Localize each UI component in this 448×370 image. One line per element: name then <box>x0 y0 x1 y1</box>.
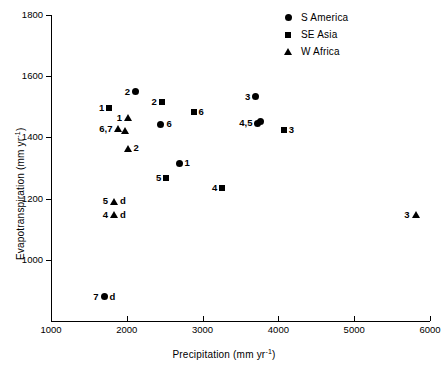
data-point-label: 3 <box>404 209 409 220</box>
x-tick-label: 5000 <box>344 324 365 335</box>
data-point-circle <box>101 293 108 300</box>
data-point-label: 6,7 <box>99 123 112 134</box>
y-tick <box>46 137 51 138</box>
data-point-square <box>106 105 112 111</box>
data-point-circle <box>157 121 164 128</box>
data-point-label: 3 <box>245 91 250 102</box>
data-point-circle <box>176 160 183 167</box>
x-tick-label: 4000 <box>268 324 289 335</box>
data-point-label: 1 <box>117 112 122 123</box>
x-tick <box>430 316 431 321</box>
y-tick <box>46 76 51 77</box>
data-point-square <box>163 175 169 181</box>
data-point-suffix: d <box>120 195 126 206</box>
legend-item-triangle: W Africa <box>281 44 348 59</box>
data-point-suffix: d <box>110 291 116 302</box>
data-point-square <box>281 127 287 133</box>
data-point-suffix: d <box>120 209 126 220</box>
data-point-square <box>191 109 197 115</box>
data-point-triangle <box>412 211 420 218</box>
data-point-label: 2 <box>125 86 130 97</box>
data-point-triangle <box>110 211 118 218</box>
legend-item-square: SE Asia <box>281 27 348 42</box>
x-axis-line <box>51 321 430 322</box>
y-tick-label: 1600 <box>0 70 43 81</box>
x-tick-label: 2000 <box>116 324 137 335</box>
circle-icon <box>281 14 295 21</box>
data-point-label: 1 <box>99 102 104 113</box>
data-point-triangle <box>124 145 132 152</box>
x-axis-title: Precipitation (mm yr-1) <box>0 348 448 360</box>
data-point-circle <box>252 93 259 100</box>
legend-label: S America <box>301 12 348 23</box>
x-tick <box>51 316 52 321</box>
data-point-label: 6 <box>199 106 204 117</box>
data-point-label: 6 <box>166 118 171 129</box>
data-point-triangle <box>121 127 129 134</box>
chart-legend: S AmericaSE AsiaW Africa <box>281 10 348 61</box>
y-tick <box>46 15 51 16</box>
x-tick <box>203 316 204 321</box>
triangle-icon <box>281 48 295 55</box>
data-point-square <box>159 99 165 105</box>
x-tick <box>278 316 279 321</box>
data-point-label: 2 <box>134 142 139 153</box>
x-tick-label: 3000 <box>192 324 213 335</box>
legend-label: SE Asia <box>301 29 337 40</box>
x-tick-label: 1000 <box>40 324 61 335</box>
x-tick <box>127 316 128 321</box>
x-tick-label: 6000 <box>419 324 440 335</box>
x-tick <box>354 316 355 321</box>
data-point-label: 1 <box>185 157 190 168</box>
data-point-label: 2 <box>151 96 156 107</box>
square-icon <box>281 32 295 38</box>
data-point-triangle <box>124 114 132 121</box>
data-point-triangle <box>110 198 118 205</box>
data-point-label: 3 <box>289 124 294 135</box>
scatter-chart: 1000120014001600180010002000300040005000… <box>0 0 448 370</box>
data-point-label: 5 <box>156 172 161 183</box>
y-tick <box>46 260 51 261</box>
data-point-label: 5 <box>103 195 108 206</box>
y-tick <box>46 199 51 200</box>
data-point-label: 4 <box>212 182 217 193</box>
legend-label: W Africa <box>301 46 340 57</box>
data-point-label: 4 <box>103 209 108 220</box>
data-point-circle <box>132 88 139 95</box>
data-point-square <box>219 185 225 191</box>
y-axis-line <box>51 15 52 321</box>
y-tick-label: 1800 <box>0 9 43 20</box>
legend-item-circle: S America <box>281 10 348 25</box>
data-point-circle <box>257 118 264 125</box>
data-point-label: 4,5 <box>239 117 252 128</box>
data-point-label: 7 <box>93 291 98 302</box>
y-axis-title: Evapotranspiration (mm yr-1) <box>14 128 26 260</box>
